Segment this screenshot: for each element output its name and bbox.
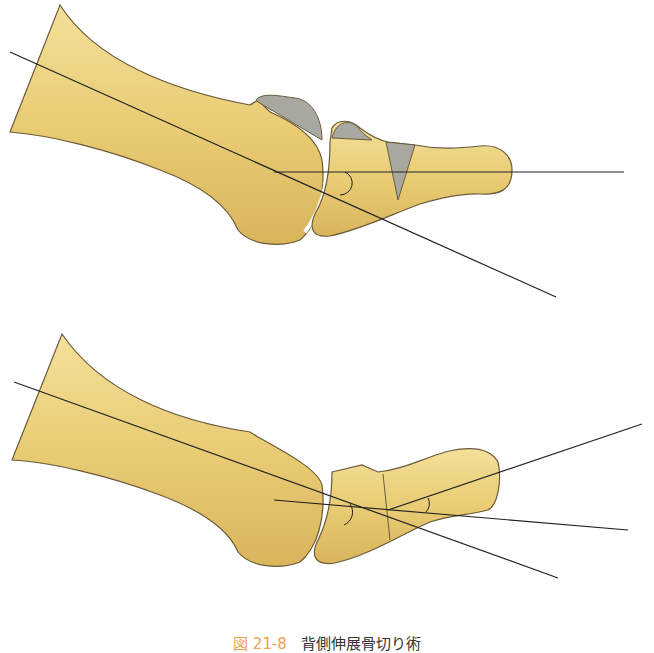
figure-caption: 図 21-8背側伸展骨切り術 (0, 632, 654, 653)
panel-before (10, 5, 624, 297)
panel-after (12, 334, 642, 578)
proximal-bone (10, 5, 323, 244)
figure-number: 図 21-8 (233, 635, 287, 653)
proximal-bone-after (12, 334, 323, 566)
figure-title: 背側伸展骨切り術 (301, 635, 421, 653)
